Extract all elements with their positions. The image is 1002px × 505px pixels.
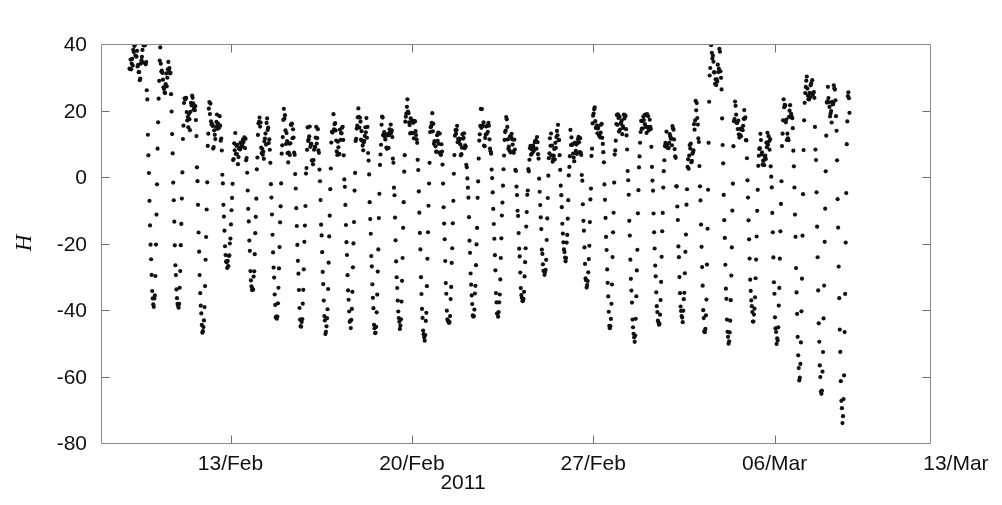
x-axis-label: 2011 [440,470,485,494]
x-tick-label: 13/Mar [923,451,988,475]
y-tick-label: 0 [0,165,87,189]
y-tick-label: 40 [0,32,87,56]
x-tick-label: 27/Feb [561,451,626,475]
y-axis-label: H [11,235,37,252]
y-tick-label: -40 [0,298,87,322]
y-tick-label: -80 [0,431,87,455]
x-tick-label: 13/Feb [198,451,263,475]
x-tick-label: 06/Mar [742,451,807,475]
scatter-plot-canvas [0,0,1002,505]
y-tick-label: -60 [0,365,87,389]
x-tick-label: 20/Feb [379,451,444,475]
y-tick-label: 20 [0,99,87,123]
chart-figure: 40200-20-40-60-80 13/Feb20/Feb27/Feb06/M… [0,0,1002,505]
